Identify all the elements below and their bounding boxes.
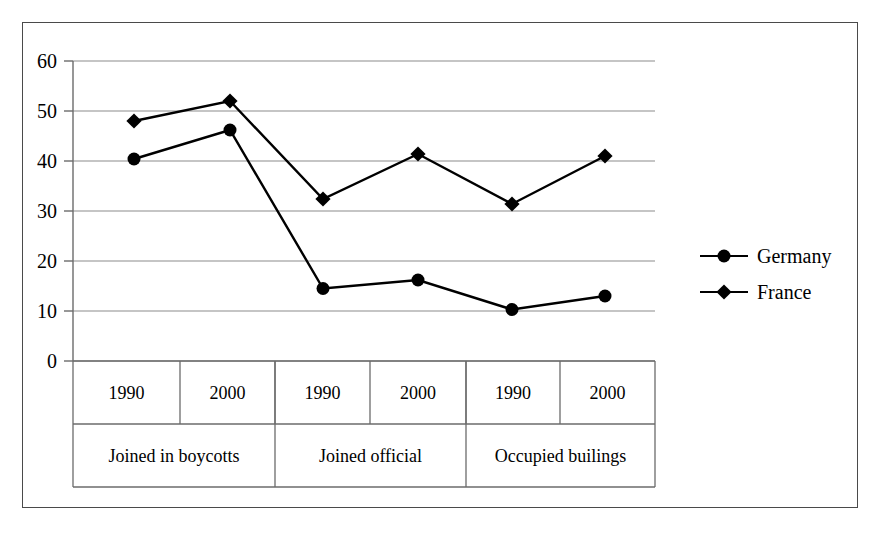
- legend-label-germany: Germany: [757, 246, 831, 266]
- category-group-label: Joined in boycotts: [73, 447, 275, 465]
- y-axis-tick-label: 50: [13, 101, 57, 121]
- legend-label-france: France: [757, 282, 811, 302]
- y-axis-tick-label: 0: [13, 351, 57, 371]
- y-axis-tick-label: 40: [13, 151, 57, 171]
- category-year-label: 2000: [180, 384, 275, 402]
- y-axis-tick-label: 60: [13, 51, 57, 71]
- category-year-label: 1990: [466, 384, 560, 402]
- category-year-label: 1990: [73, 384, 180, 402]
- chart-frame: [22, 22, 858, 508]
- category-group-label: Joined official: [275, 447, 466, 465]
- category-year-label: 2000: [370, 384, 466, 402]
- category-year-label: 2000: [560, 384, 655, 402]
- y-axis-tick-label: 10: [13, 301, 57, 321]
- chart-page: 6050403020100 199020001990200019902000 J…: [0, 0, 880, 538]
- y-axis-tick-label: 30: [13, 201, 57, 221]
- category-year-label: 1990: [275, 384, 370, 402]
- y-axis-tick-label: 20: [13, 251, 57, 271]
- category-group-label: Occupied builings: [466, 447, 655, 465]
